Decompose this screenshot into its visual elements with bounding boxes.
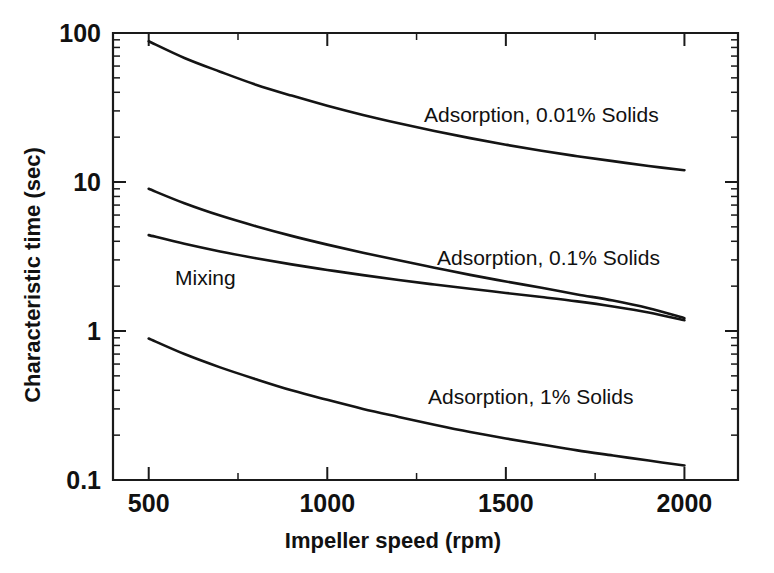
x-axis-ticks <box>149 467 685 480</box>
figure-container: 0.1110100 500100015002000 Adsorption, 0.… <box>0 0 774 573</box>
series-annotation-2: Adsorption, 0.1% Solids <box>437 246 660 269</box>
x-axis-title: Impeller speed (rpm) <box>285 528 501 553</box>
y-tick-label: 0.1 <box>66 466 101 494</box>
series-annotation-4: Adsorption, 1% Solids <box>428 385 633 408</box>
x-axis-tick-labels: 500100015002000 <box>128 489 712 517</box>
series-annotation-3: Mixing <box>175 266 236 289</box>
x-tick-label: 1000 <box>299 489 355 517</box>
y-tick-label: 10 <box>73 168 101 196</box>
x-tick-label: 2000 <box>657 489 713 517</box>
x-tick-label: 1500 <box>478 489 534 517</box>
top-axis-ticks <box>149 33 685 46</box>
characteristic-time-vs-impeller-speed-chart: 0.1110100 500100015002000 Adsorption, 0.… <box>0 0 774 573</box>
series-annotation-1: Adsorption, 0.01% Solids <box>424 103 659 126</box>
y-axis-ticks <box>113 33 126 480</box>
y-axis-tick-labels: 0.1110100 <box>59 19 101 494</box>
y-tick-label: 1 <box>87 317 101 345</box>
y-axis-title: Characteristic time (sec) <box>20 147 45 403</box>
y-tick-label: 100 <box>59 19 101 47</box>
right-axis-ticks <box>725 33 738 480</box>
x-tick-label: 500 <box>128 489 170 517</box>
